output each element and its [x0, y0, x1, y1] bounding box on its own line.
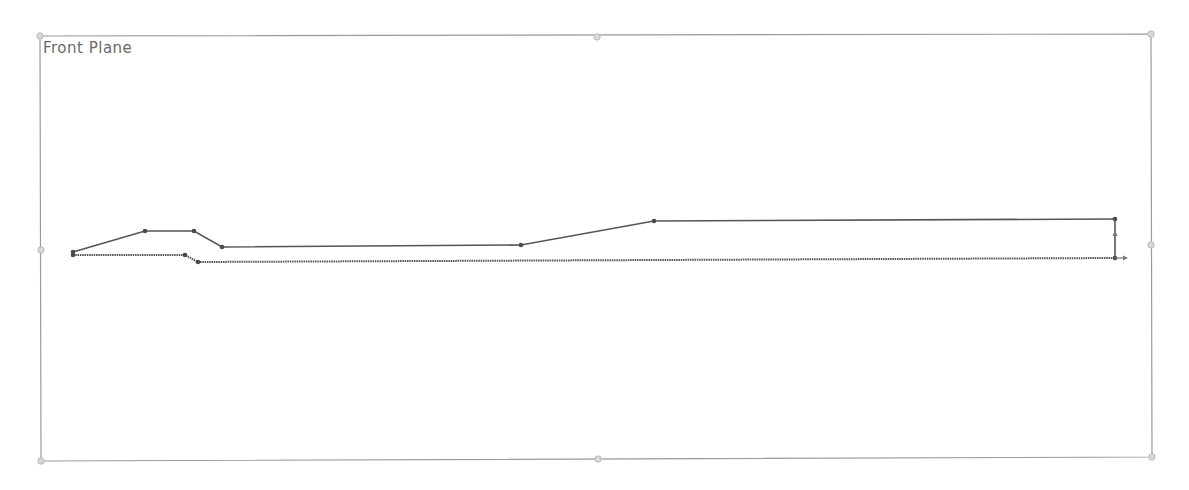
sketch-vertex[interactable] — [519, 243, 524, 248]
plane-handle-edge-top-mid[interactable] — [594, 34, 600, 40]
plane-handle-edge-bottom-mid[interactable] — [595, 456, 601, 462]
sketch-vertex[interactable] — [192, 229, 197, 234]
sketch-vertex[interactable] — [143, 229, 148, 234]
sketch-canvas[interactable] — [0, 0, 1189, 490]
plane-handle-corner-top-right[interactable] — [1148, 31, 1154, 37]
sketch-vertex[interactable] — [1113, 217, 1118, 222]
sketch-vertex[interactable] — [196, 260, 201, 265]
sketch-centerline[interactable] — [73, 255, 1115, 262]
plane-handle-edge-right-mid[interactable] — [1148, 242, 1154, 248]
sketch-vertex[interactable] — [183, 253, 188, 258]
sketch-vertex[interactable] — [71, 253, 76, 258]
graphics-viewport[interactable]: Front Plane — [0, 0, 1189, 490]
sketch-upper-profile[interactable] — [73, 219, 1115, 252]
plane-handle-corner-bottom-left[interactable] — [38, 458, 44, 464]
plane-handle-edge-left-mid[interactable] — [38, 247, 44, 253]
front-plane[interactable] — [37, 31, 1155, 464]
sketch-vertex[interactable] — [220, 245, 225, 250]
plane-border[interactable] — [40, 34, 1152, 461]
plane-label: Front Plane — [43, 39, 132, 57]
sketch-profile[interactable] — [71, 217, 1118, 265]
plane-handle-corner-bottom-right[interactable] — [1149, 454, 1155, 460]
sketch-vertex[interactable] — [652, 219, 657, 224]
